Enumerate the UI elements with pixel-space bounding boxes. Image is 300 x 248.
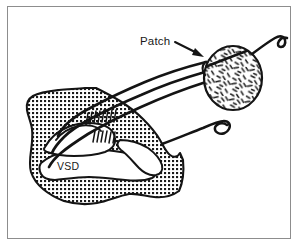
figure-canvas: Patch VSD [0, 0, 300, 248]
figure-root: Patch VSD [0, 0, 300, 248]
suture-tail-lower [162, 121, 230, 144]
vsd-label-group: VSD [57, 160, 79, 172]
suture-tail-upper [252, 36, 287, 54]
patch-label: Patch [140, 35, 170, 47]
circular-patch-graft [198, 40, 270, 110]
vsd-label: VSD [57, 160, 79, 172]
patch-label-group: Patch [140, 35, 204, 57]
patch-leader-arrow [175, 42, 204, 57]
